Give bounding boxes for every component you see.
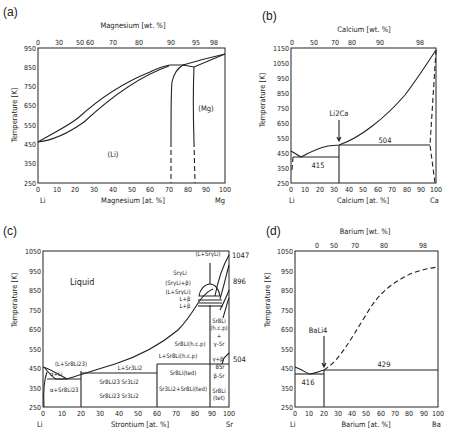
- svg-text:60: 60: [86, 39, 94, 47]
- panel-a-x-axis-title: Magnesium [at. %]: [101, 196, 165, 205]
- svg-text:0: 0: [41, 410, 45, 418]
- label-l-beta-2: L+β: [180, 302, 192, 310]
- svg-text:70: 70: [391, 410, 399, 418]
- label-beta-sr: β-Sr: [213, 372, 225, 380]
- label-sr8li-tet: Sr8Li: [212, 387, 226, 394]
- panel-c-y-tick-labels: 1050 950 850 750 650 550 450 350 250: [25, 248, 41, 412]
- svg-text:30: 30: [330, 186, 338, 194]
- panel-d-right-element: Ba: [432, 420, 441, 429]
- svg-text:750: 750: [24, 83, 36, 91]
- label-l-srgli-top: (L+SrγLi): [195, 250, 220, 258]
- svg-text:1150: 1150: [273, 45, 289, 53]
- panel-d-compound-arrow: [322, 336, 326, 367]
- svg-text:100: 100: [219, 186, 231, 194]
- panel-b-top-tick-labels: 0 50 70 80 90 98: [290, 39, 424, 47]
- svg-text:80: 80: [380, 242, 388, 250]
- svg-text:350: 350: [29, 385, 41, 393]
- svg-text:0: 0: [315, 242, 319, 250]
- svg-text:550: 550: [24, 122, 36, 130]
- panel-d-x-axis-title: Barium [at. %]: [341, 420, 391, 429]
- svg-text:650: 650: [24, 102, 36, 110]
- svg-text:98: 98: [419, 242, 427, 250]
- panel-a-right-element: Mg: [215, 196, 225, 205]
- label-srgli: SrγLi: [173, 269, 186, 277]
- panel-c-temp-1047: 1047: [232, 251, 249, 260]
- svg-text:10: 10: [305, 410, 313, 418]
- svg-text:80: 80: [405, 410, 413, 418]
- label-tet: (tet): [213, 394, 225, 401]
- label-l-sr8li23: (L+Sr8Li23): [55, 360, 87, 367]
- svg-text:30: 30: [90, 186, 98, 194]
- label-mix-1: Sr8Li23 Sr3Li2: [99, 378, 138, 385]
- svg-text:70: 70: [351, 242, 359, 250]
- svg-text:30: 30: [334, 410, 342, 418]
- svg-text:10: 10: [301, 186, 309, 194]
- panel-a-mg-solvus: [193, 67, 194, 142]
- svg-text:10: 10: [53, 186, 61, 194]
- panel-a-top-tick-labels: 0 30 50 60 70 80 90 95 98: [36, 39, 218, 47]
- svg-text:90: 90: [208, 410, 216, 418]
- svg-text:40: 40: [109, 186, 117, 194]
- svg-text:650: 650: [277, 120, 289, 128]
- svg-text:80: 80: [403, 186, 411, 194]
- svg-text:95: 95: [192, 39, 200, 47]
- panel-c-x-axis-title: Strontium [at. %]: [111, 420, 170, 429]
- svg-text:450: 450: [281, 365, 293, 373]
- svg-text:550: 550: [29, 346, 41, 354]
- panel-c-li-solvus: [44, 372, 47, 407]
- svg-text:50: 50: [134, 410, 142, 418]
- panel-a-region-li: (Li): [108, 150, 119, 159]
- svg-text:350: 350: [281, 385, 293, 393]
- label-alpha-sr8li23: α+Sr8Li23: [50, 386, 79, 393]
- panel-d-y-axis-title: Temperature [K]: [263, 272, 272, 328]
- panel-b-right-element: Ca: [430, 196, 439, 205]
- svg-text:98: 98: [416, 39, 424, 47]
- panel-a-label: (a): [3, 5, 18, 19]
- svg-text:850: 850: [281, 287, 293, 295]
- panel-a-y-tick-labels: 950 850 750 650 550 450 350 250: [24, 45, 36, 188]
- svg-text:90: 90: [417, 186, 425, 194]
- svg-text:750: 750: [277, 105, 289, 113]
- panel-c-temp-504: 504: [233, 355, 246, 364]
- label-mix-2: Sr8Li23 Sr3Li2: [99, 392, 138, 399]
- svg-text:60: 60: [377, 410, 385, 418]
- svg-text:70: 70: [172, 410, 180, 418]
- svg-text:100: 100: [432, 410, 444, 418]
- label-85r: 85r: [215, 363, 225, 370]
- panel-a: (a) Magnesium [wt. %] 0 30 50 60 70 80 9…: [3, 5, 231, 205]
- svg-text:0: 0: [293, 410, 297, 418]
- svg-text:20: 20: [316, 186, 324, 194]
- svg-text:0: 0: [36, 39, 40, 47]
- svg-text:0: 0: [290, 39, 294, 47]
- label-sr8li-ted: Sr8Li(ted): [170, 369, 197, 376]
- svg-text:50: 50: [310, 39, 318, 47]
- svg-text:98: 98: [210, 39, 218, 47]
- svg-text:90: 90: [202, 186, 210, 194]
- svg-text:250: 250: [281, 404, 293, 412]
- panel-a-liquidus-curve: [38, 65, 185, 142]
- svg-text:60: 60: [374, 186, 382, 194]
- svg-text:80: 80: [184, 186, 192, 194]
- svg-text:250: 250: [24, 180, 36, 188]
- panel-c-y-axis-title: Temperature [K]: [10, 272, 19, 328]
- svg-text:20: 20: [71, 186, 79, 194]
- panel-c-left-element: Li: [37, 420, 43, 429]
- panel-b-ca-side-dashed: [430, 50, 436, 183]
- panel-c-label: (c): [3, 224, 17, 238]
- panel-b-top-axis-title: Calcium [wt. %]: [337, 25, 391, 34]
- svg-text:70: 70: [388, 186, 396, 194]
- label-plus: +: [217, 332, 222, 339]
- svg-text:750: 750: [281, 307, 293, 315]
- svg-text:20: 20: [77, 410, 85, 418]
- svg-text:550: 550: [277, 135, 289, 143]
- panel-b-temp-504: 504: [379, 136, 392, 145]
- panel-b-li-solvus-dashed: [292, 157, 293, 170]
- svg-text:70: 70: [165, 186, 173, 194]
- svg-text:1050: 1050: [25, 248, 41, 256]
- svg-text:50: 50: [128, 186, 136, 194]
- panel-c-sr-side-lens: [215, 255, 229, 299]
- panel-c-temp-896: 896: [233, 277, 246, 286]
- svg-text:650: 650: [29, 326, 41, 334]
- panel-a-top-axis-title: Magnesium [wt. %]: [100, 21, 166, 30]
- svg-text:70: 70: [109, 39, 117, 47]
